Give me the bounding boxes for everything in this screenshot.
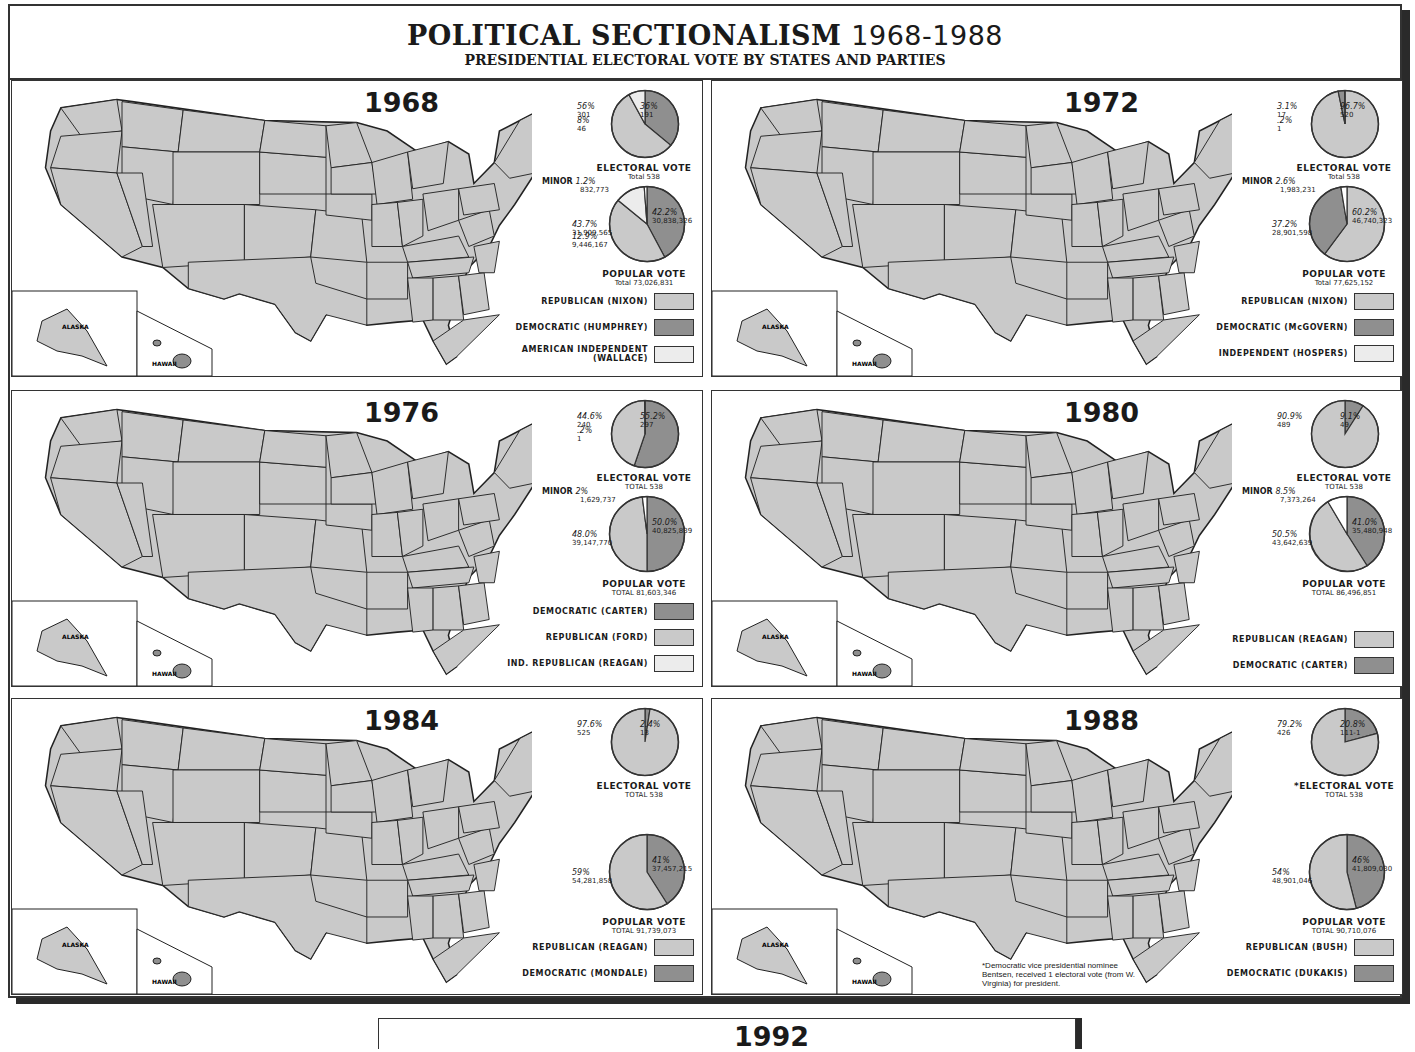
legend-item-democratic: DEMOCRATIC (McGOVERN) bbox=[1216, 319, 1394, 336]
panel-1972: ALASKA HAWAII 197296.7%5203.1%17.2%1ELEC… bbox=[711, 80, 1403, 377]
panel-1988: ALASKA HAWAII 198820.8%111-179.2%426*ELE… bbox=[711, 698, 1403, 995]
svg-text:ALASKA: ALASKA bbox=[762, 941, 789, 948]
year-label: 1984 bbox=[364, 705, 439, 736]
electoral-slice-label: 9.1%49 bbox=[1340, 413, 1360, 429]
svg-text:ALASKA: ALASKA bbox=[62, 323, 89, 330]
electoral-slice-label: 79.2%426 bbox=[1277, 721, 1302, 737]
svg-text:HAWAII: HAWAII bbox=[852, 670, 877, 677]
popular-slice-label: 50.0%40,825,839 bbox=[652, 519, 692, 535]
legend-swatch bbox=[654, 629, 694, 646]
popular-slice-label: 42.2%30,838,326 bbox=[652, 209, 692, 225]
legend-item-republican: REPUBLICAN (BUSH) bbox=[1246, 939, 1394, 956]
legend-item-third: INDEPENDENT (HOSPERS) bbox=[1219, 345, 1394, 362]
svg-text:ALASKA: ALASKA bbox=[62, 941, 89, 948]
us-map-1984: ALASKA HAWAII bbox=[12, 699, 532, 994]
panel-1980: ALASKA HAWAII 19809.1%4990.9%489ELECTORA… bbox=[711, 390, 1403, 687]
popular-vote-pie bbox=[1308, 833, 1386, 915]
legend-swatch bbox=[1354, 657, 1394, 674]
legend-swatch bbox=[654, 603, 694, 620]
popular-vote-pie bbox=[608, 833, 686, 915]
electoral-slice-label: 96.7%520 bbox=[1340, 103, 1365, 119]
panel-1976: ALASKA HAWAII 197655.2%29744.6%240.2%1EL… bbox=[11, 390, 703, 687]
minor-vote-label: MINOR 8.5%7,373,264 bbox=[1242, 487, 1316, 504]
popular-slice-label: 60.2%46,740,323 bbox=[1352, 209, 1392, 225]
svg-text:HAWAII: HAWAII bbox=[152, 360, 177, 367]
popular-vote-pie bbox=[1308, 495, 1386, 577]
electoral-slice-label: .2%1 bbox=[577, 427, 592, 443]
minor-vote-label: MINOR 2.6%1,983,231 bbox=[1242, 177, 1316, 194]
legend-item-republican: REPUBLICAN (REAGAN) bbox=[532, 939, 694, 956]
electoral-slice-label: 90.9%489 bbox=[1277, 413, 1302, 429]
svg-text:ALASKA: ALASKA bbox=[762, 323, 789, 330]
electoral-slice-label: 8%46 bbox=[577, 117, 590, 133]
year-label: 1976 bbox=[364, 397, 439, 428]
popular-slice-label: 12.9%9,446,167 bbox=[572, 233, 608, 249]
legend-item-republican: REPUBLICAN (NIXON) bbox=[1241, 293, 1394, 310]
popular-slice-label: 41%37,457,215 bbox=[652, 857, 692, 873]
footnote: *Democratic vice presidential nominee Be… bbox=[982, 961, 1142, 988]
us-map-1968: ALASKA HAWAII bbox=[12, 81, 532, 376]
year-label: 1988 bbox=[1064, 705, 1139, 736]
electoral-vote-pie bbox=[610, 707, 680, 781]
legend-swatch bbox=[1354, 293, 1394, 310]
us-map-1988: ALASKA HAWAII bbox=[712, 699, 1232, 994]
popular-vote-label: POPULAR VOTETotal 73,026,831 bbox=[584, 269, 703, 287]
legend-swatch bbox=[1354, 631, 1394, 648]
electoral-slice-label: 2.4%13 bbox=[640, 721, 660, 737]
svg-text:HAWAII: HAWAII bbox=[152, 670, 177, 677]
popular-slice-label: 48.0%39,147,770 bbox=[572, 531, 612, 547]
legend-swatch bbox=[654, 346, 694, 363]
electoral-slice-label: 20.8%111-1 bbox=[1340, 721, 1365, 737]
electoral-slice-label: .2%1 bbox=[1277, 117, 1292, 133]
legend-swatch bbox=[654, 293, 694, 310]
title-text: POLITICAL SECTIONALISM bbox=[407, 20, 841, 51]
popular-slice-label: 54%48,901,046 bbox=[1272, 869, 1312, 885]
popular-slice-label: 50.5%43,642,639 bbox=[1272, 531, 1312, 547]
us-map-1976: ALASKA HAWAII bbox=[12, 391, 532, 686]
legend-item-third: AMERICAN INDEPENDENT (WALLACE) bbox=[478, 345, 694, 363]
minor-vote-label: MINOR 2%1,629,737 bbox=[542, 487, 616, 504]
panel-1968: ALASKA HAWAII 196836%19156%3018%46ELECTO… bbox=[11, 80, 703, 377]
legend-swatch bbox=[1354, 345, 1394, 362]
legend-swatch bbox=[1354, 965, 1394, 982]
electoral-vote-pie bbox=[1310, 399, 1380, 473]
partial-1992-panel: 1992 bbox=[378, 1018, 1076, 1049]
year-label: 1980 bbox=[1064, 397, 1139, 428]
legend-swatch bbox=[654, 655, 694, 672]
svg-text:HAWAII: HAWAII bbox=[852, 978, 877, 985]
electoral-vote-pie bbox=[1310, 89, 1380, 163]
legend-swatch bbox=[654, 939, 694, 956]
popular-vote-label: POPULAR VOTETOTAL 86,496,851 bbox=[1284, 579, 1403, 597]
popular-slice-label: 37.2%28,901,598 bbox=[1272, 221, 1312, 237]
legend-item-third: IND. REPUBLICAN (REAGAN) bbox=[507, 655, 694, 672]
legend-item-democratic: DEMOCRATIC (DUKAKIS) bbox=[1227, 965, 1394, 982]
legend-item-republican: REPUBLICAN (REAGAN) bbox=[1232, 631, 1394, 648]
legend-item-democratic: DEMOCRATIC (MONDALE) bbox=[522, 965, 694, 982]
popular-vote-pie bbox=[608, 185, 686, 267]
year-label-1992: 1992 bbox=[734, 1021, 809, 1052]
legend-swatch bbox=[654, 319, 694, 336]
popular-slice-label: 46%41,809,030 bbox=[1352, 857, 1392, 873]
legend-item-republican: REPUBLICAN (NIXON) bbox=[541, 293, 694, 310]
legend-item-democratic: DEMOCRATIC (CARTER) bbox=[533, 603, 694, 620]
page-subtitle: PRESIDENTIAL ELECTORAL VOTE BY STATES AN… bbox=[10, 52, 1400, 68]
popular-vote-pie bbox=[608, 495, 686, 577]
title-years: 1968-1988 bbox=[851, 20, 1003, 51]
popular-vote-label: POPULAR VOTETOTAL 81,603,346 bbox=[584, 579, 703, 597]
electoral-vote-pie bbox=[610, 89, 680, 163]
popular-vote-pie bbox=[1308, 185, 1386, 267]
popular-vote-label: POPULAR VOTETOTAL 91,739,073 bbox=[584, 917, 703, 935]
popular-vote-label: POPULAR VOTETotal 77,625,152 bbox=[1284, 269, 1403, 287]
svg-text:ALASKA: ALASKA bbox=[62, 633, 89, 640]
legend-swatch bbox=[1354, 939, 1394, 956]
year-label: 1968 bbox=[364, 87, 439, 118]
page-title: POLITICAL SECTIONALISM 1968-1988 bbox=[10, 20, 1400, 51]
svg-text:HAWAII: HAWAII bbox=[152, 978, 177, 985]
minor-vote-label: MINOR 1.2%832,773 bbox=[542, 177, 609, 194]
panel-1984: ALASKA HAWAII 19842.4%1397.6%525ELECTORA… bbox=[11, 698, 703, 995]
popular-slice-label: 59%54,281,858 bbox=[572, 869, 612, 885]
legend-swatch bbox=[654, 965, 694, 982]
title-block: POLITICAL SECTIONALISM 1968-1988 PRESIDE… bbox=[10, 6, 1400, 80]
electoral-slice-label: 97.6%525 bbox=[577, 721, 602, 737]
us-map-1980: ALASKA HAWAII bbox=[712, 391, 1232, 686]
